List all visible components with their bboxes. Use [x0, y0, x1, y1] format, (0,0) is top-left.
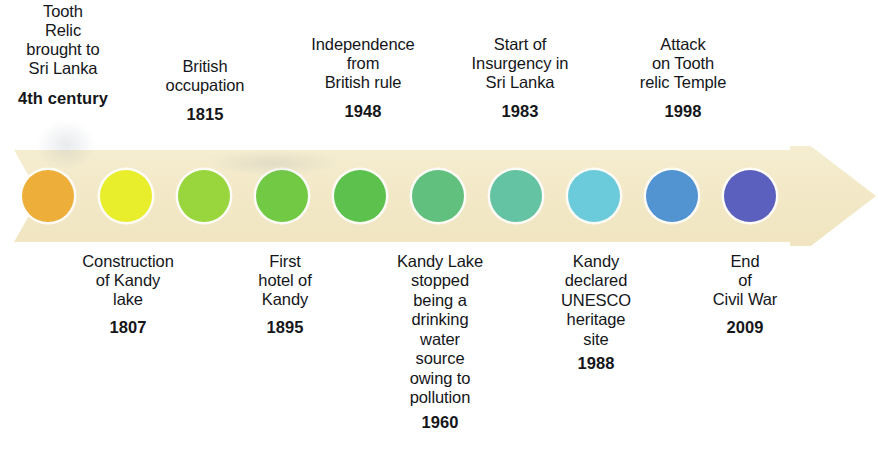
timeline-dot-3	[256, 170, 308, 222]
timeline-dot-1	[100, 170, 152, 222]
timeline-year-5: 1960	[370, 413, 510, 432]
timeline-label-3: First hotel of Kandy 1895	[215, 252, 355, 338]
timeline-dot-7	[568, 170, 620, 222]
timeline-year-3: 1895	[215, 318, 355, 337]
timeline-dot-9	[724, 170, 776, 222]
timeline-dot-4	[334, 170, 386, 222]
timeline-label-8: Attack on Tooth relic Temple 1998	[603, 35, 763, 122]
timeline-label-0: Tooth Relic brought to Sri Lanka 4th cen…	[0, 2, 128, 108]
timeline-dot-0	[22, 170, 74, 222]
timeline-caption-7: Kandy declared UNESCO heritage site	[526, 252, 666, 349]
timeline-caption-1: Construction of Kandy lake	[48, 252, 208, 309]
timeline-caption-6: Start of Insurgency in Sri Lanka	[440, 35, 600, 92]
timeline-label-1: Construction of Kandy lake 1807	[48, 252, 208, 338]
timeline-caption-2: British occupation	[130, 57, 280, 95]
timeline-dot-6	[490, 170, 542, 222]
timeline-caption-0: Tooth Relic brought to Sri Lanka	[0, 2, 128, 79]
timeline-figure: Tooth Relic brought to Sri Lanka 4th cen…	[0, 0, 878, 458]
timeline-caption-5: Kandy Lake stopped being a drinking wate…	[370, 252, 510, 408]
timeline-label-9: End of Civil War 2009	[675, 252, 815, 338]
timeline-year-4: 1948	[278, 102, 448, 121]
timeline-year-7: 1988	[526, 354, 666, 373]
timeline-year-9: 2009	[675, 318, 815, 337]
timeline-label-7: Kandy declared UNESCO heritage site 1988	[526, 252, 666, 373]
timeline-dot-5	[412, 170, 464, 222]
timeline-caption-3: First hotel of Kandy	[215, 252, 355, 309]
timeline-label-2: British occupation 1815	[130, 57, 280, 124]
timeline-label-4: Independence from British rule 1948	[278, 35, 448, 122]
timeline-year-6: 1983	[440, 102, 600, 121]
timeline-year-0: 4th century	[0, 89, 128, 108]
timeline-caption-4: Independence from British rule	[278, 35, 448, 92]
timeline-dot-2	[178, 170, 230, 222]
timeline-label-6: Start of Insurgency in Sri Lanka 1983	[440, 35, 600, 122]
timeline-caption-8: Attack on Tooth relic Temple	[603, 35, 763, 92]
timeline-label-5: Kandy Lake stopped being a drinking wate…	[370, 252, 510, 432]
timeline-dot-8	[646, 170, 698, 222]
timeline-year-1: 1807	[48, 318, 208, 337]
timeline-markers	[0, 146, 878, 246]
timeline-caption-9: End of Civil War	[675, 252, 815, 309]
timeline-year-2: 1815	[130, 105, 280, 124]
timeline-year-8: 1998	[603, 102, 763, 121]
